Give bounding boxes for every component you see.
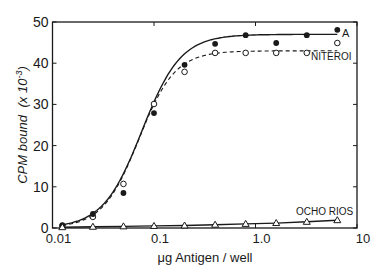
chart: 010203040500.010.11.010 A NITEROI OCHO R…	[0, 0, 374, 272]
marker-niteroi	[212, 50, 218, 56]
fit-curves	[62, 34, 337, 227]
fit-curve-ocho-rios	[62, 220, 337, 227]
marker-a	[243, 32, 249, 38]
marker-a	[182, 62, 188, 68]
x-tick-label: 0.01	[46, 231, 71, 246]
marker-a	[90, 211, 96, 217]
x-tick-label: 1.0	[252, 231, 270, 246]
y-tick-label: 10	[33, 179, 49, 195]
y-axis-label-unit: (x 10	[15, 78, 30, 108]
svg-text:CPM bound (x 10-3): CPM bound (x 10-3)	[14, 66, 30, 184]
marker-a	[212, 41, 218, 47]
marker-niteroi	[304, 50, 310, 56]
series-label-ocho-rios: OCHO RIOS	[296, 206, 354, 217]
x-axis-label: μg Antigen / well	[158, 250, 253, 265]
marker-a	[304, 32, 310, 38]
marker-a	[334, 27, 340, 33]
marker-a	[151, 110, 157, 116]
series-label-niteroi: NITEROI	[311, 51, 352, 62]
y-axis-label: CPM bound (x 10-3)	[14, 66, 30, 184]
y-axis-label-exp: -3	[14, 71, 24, 79]
y-tick-label: 20	[33, 138, 49, 154]
marker-niteroi	[121, 181, 127, 187]
y-tick-label: 30	[33, 96, 49, 112]
marker-niteroi	[151, 101, 157, 107]
marker-a	[121, 190, 127, 196]
marker-a	[273, 40, 279, 46]
y-tick-label: 50	[33, 14, 49, 30]
x-tick-label: 0.1	[151, 231, 169, 246]
data-points	[59, 27, 341, 230]
marker-niteroi	[273, 50, 279, 56]
fit-curve-a	[62, 34, 337, 224]
marker-niteroi	[243, 50, 249, 56]
fit-curve-niteroi	[62, 51, 337, 226]
chart-canvas: 010203040500.010.11.010 A NITEROI OCHO R…	[0, 0, 374, 272]
y-axis-label-main: CPM bound	[15, 114, 30, 183]
marker-niteroi	[182, 69, 188, 75]
marker-niteroi	[335, 40, 341, 46]
series-label-a: A	[342, 27, 350, 39]
x-tick-label: 10	[356, 231, 370, 246]
y-tick-label: 40	[33, 55, 49, 71]
